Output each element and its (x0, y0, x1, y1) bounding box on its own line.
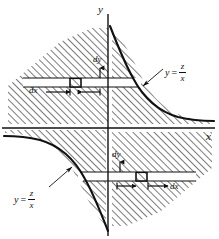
equation-lhs: y (14, 195, 18, 205)
equation-numerator: z (180, 62, 186, 71)
leader-line-upper-right (143, 69, 163, 86)
equation-equals-sign: = (171, 68, 177, 78)
curve-equation-upper-right: y = z x (165, 62, 186, 83)
equation-denominator: x (29, 201, 35, 210)
equation-denominator: x (180, 74, 186, 83)
lower-strip-element (78, 172, 196, 181)
upper-area-element-square (70, 79, 81, 88)
upper-strip-element (23, 78, 141, 87)
equation-fraction: z x (179, 62, 186, 83)
lower-dy-label: dy (112, 150, 121, 159)
curve-equation-lower-left: y = z x (14, 189, 35, 210)
equation-numerator: z (29, 189, 35, 198)
x-axis-label: x (206, 131, 211, 142)
lower-area-element-square (136, 173, 147, 182)
upper-dx-label: dx (29, 86, 38, 95)
y-axis-label: y (98, 4, 103, 15)
equation-fraction: z x (28, 189, 35, 210)
equation-equals-sign: = (20, 195, 26, 205)
hyperbola-figure: y x dy dx dy dx y = z x y = z x (0, 0, 219, 239)
upper-dy-label: dy (93, 55, 102, 64)
lower-dx-label: dx (170, 182, 179, 191)
equation-lhs: y (165, 68, 169, 78)
leader-line-lower-left (49, 167, 72, 187)
